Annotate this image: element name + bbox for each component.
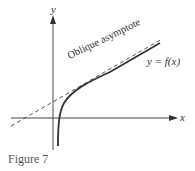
x-axis-label: x xyxy=(180,112,185,123)
curve-label: y = f(x) xyxy=(147,56,180,67)
y-axis-label: y xyxy=(51,4,56,15)
x-axis-arrow-icon xyxy=(169,115,178,121)
figure-caption: Figure 7 xyxy=(8,153,48,165)
plot-canvas xyxy=(0,0,195,171)
oblique-asymptote-figure: y x y = f(x) Oblique asymptote Figure 7 xyxy=(0,0,195,171)
y-axis-arrow-icon xyxy=(50,15,56,24)
